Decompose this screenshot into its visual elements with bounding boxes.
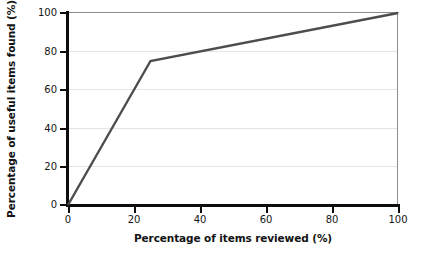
x-axis-line xyxy=(66,204,400,207)
x-tick-label-80: 80 xyxy=(312,215,352,225)
plot-frame-right xyxy=(397,12,398,206)
x-tick-label-60: 60 xyxy=(246,215,286,225)
y-tick-mark-40 xyxy=(60,128,66,130)
gridline-y-80 xyxy=(68,51,398,52)
y-tick-mark-80 xyxy=(60,51,66,53)
x-tick-label-40: 40 xyxy=(180,215,220,225)
x-tick-mark-20 xyxy=(134,207,136,213)
gridline-y-60 xyxy=(68,89,398,90)
x-tick-label-100: 100 xyxy=(378,215,418,225)
x-tick-mark-80 xyxy=(332,207,334,213)
y-tick-label-0: 0 xyxy=(0,200,57,210)
y-tick-label-80: 80 xyxy=(0,47,57,57)
y-tick-label-20: 20 xyxy=(0,162,57,172)
y-tick-label-60: 60 xyxy=(0,85,57,95)
x-tick-mark-60 xyxy=(266,207,268,213)
gridline-y-40 xyxy=(68,128,398,129)
y-tick-mark-100 xyxy=(60,12,66,14)
x-tick-mark-0 xyxy=(68,207,70,213)
x-tick-label-20: 20 xyxy=(114,215,154,225)
y-axis-line xyxy=(66,11,69,207)
x-tick-mark-100 xyxy=(398,207,400,213)
y-tick-mark-20 xyxy=(60,166,66,168)
x-axis-title: Percentage of items reviewed (%) xyxy=(68,232,398,244)
y-tick-label-40: 40 xyxy=(0,124,57,134)
y-tick-mark-0 xyxy=(60,204,66,206)
plot-area xyxy=(68,13,398,205)
plot-frame-top xyxy=(68,12,399,13)
y-tick-label-100: 100 xyxy=(0,8,57,18)
x-tick-mark-40 xyxy=(200,207,202,213)
chart-figure: Percentage of useful items found (%) 100… xyxy=(0,0,430,258)
x-tick-label-0: 0 xyxy=(48,215,88,225)
y-axis-title: Percentage of useful items found (%) xyxy=(0,0,22,218)
gridline-y-20 xyxy=(68,166,398,167)
y-tick-mark-60 xyxy=(60,89,66,91)
